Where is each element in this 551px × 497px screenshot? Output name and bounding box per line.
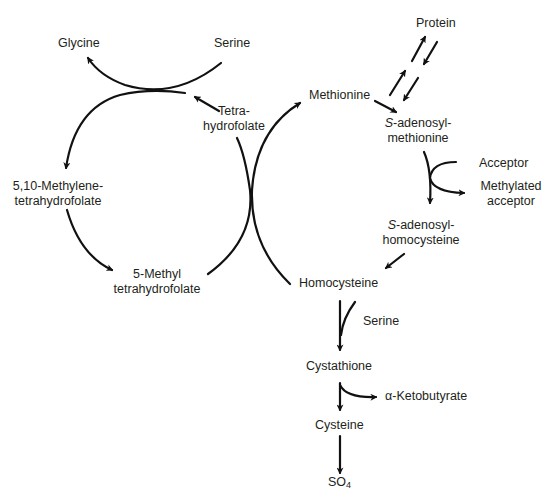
node-methionine: Methionine — [309, 88, 370, 103]
node-serine-top: Serine — [214, 36, 250, 51]
italic-prefix: S — [388, 218, 396, 232]
arrow-to-ketobutyrate — [340, 385, 376, 397]
node-cystathione: Cystathione — [306, 359, 372, 374]
node-methylated-acceptor: Methylated acceptor — [480, 179, 541, 209]
line-methyl-thf-to-thf — [208, 138, 250, 274]
label-text: -adenosyl- — [393, 116, 451, 130]
label-line: tetrahydrofolate — [13, 194, 103, 209]
node-homocysteine: Homocysteine — [299, 276, 378, 291]
arrow-serine-to-glycine — [88, 58, 221, 89]
label-line: 5,10-Methylene- — [13, 179, 103, 194]
node-alpha-ketobutyrate: α-Ketobutyrate — [385, 389, 467, 404]
label-line: tetrahydrofolate — [114, 282, 201, 297]
node-protein: Protein — [416, 16, 456, 31]
arrow-thf-to-methylene-thf — [66, 91, 185, 168]
subscript: 4 — [346, 480, 351, 490]
arrow-sam-to-protein-2 — [412, 37, 425, 61]
node-sulfate: SO4 — [328, 475, 351, 490]
arrow-methylene-to-methyl-thf — [67, 210, 112, 270]
label-line: methionine — [385, 131, 452, 146]
node-serine-lower: Serine — [363, 314, 399, 329]
label-line: Tetra- — [203, 104, 265, 119]
pathway-arrows — [0, 0, 551, 497]
label-line: homocysteine — [382, 233, 459, 248]
arrow-protein-to-sam-1 — [424, 42, 437, 64]
node-acceptor: Acceptor — [479, 156, 528, 171]
label-text: SO — [328, 475, 346, 489]
label-line: 5-Methyl — [114, 267, 201, 282]
label-line: acceptor — [480, 194, 541, 209]
node-glycine: Glycine — [58, 36, 100, 51]
arrow-acceptor-to-methylated — [430, 162, 464, 193]
node-tetrahydrofolate: Tetra- hydrofolate — [203, 104, 265, 134]
label-line: S-adenosyl- — [385, 116, 452, 131]
pathway-diagram: Glycine Serine Tetra- hydrofolate 5,10-M… — [0, 0, 551, 497]
label-line: S-adenosyl- — [382, 218, 459, 233]
node-cysteine: Cysteine — [315, 418, 364, 433]
label-line: Methylated — [480, 179, 541, 194]
label-line: hydrofolate — [203, 119, 265, 134]
node-methyl-thf: 5-Methyl tetrahydrofolate — [114, 267, 201, 297]
arrow-sah-to-homocysteine — [386, 254, 404, 268]
line-serine-cosubstrate — [341, 302, 355, 335]
arrow-protein-to-sam-2 — [404, 78, 418, 100]
node-methylene-thf: 5,10-Methylene- tetrahydrofolate — [13, 179, 103, 209]
arrow-sam-to-protein-1 — [390, 71, 405, 95]
arrow-methionine-to-sam — [375, 101, 396, 112]
node-sah: S-adenosyl- homocysteine — [382, 218, 459, 248]
node-sam: S-adenosyl- methionine — [385, 116, 452, 146]
label-text: -adenosyl- — [396, 218, 454, 232]
